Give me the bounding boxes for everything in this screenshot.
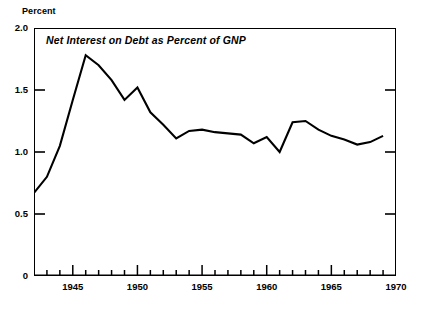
y-axis-unit-label: Percent (22, 6, 56, 16)
x-axis-ticks (34, 265, 396, 276)
y-tick-label: 1.5 (2, 84, 28, 95)
x-tick-label: 1945 (53, 281, 93, 292)
chart-figure: Percent 2.01.51.00.50 194519501955196019… (0, 0, 436, 312)
data-line-series-0 (34, 55, 383, 193)
y-tick-label: 0.5 (2, 208, 28, 219)
y-axis-ticks-left (34, 90, 45, 214)
chart-svg (34, 28, 396, 276)
x-tick-label: 1955 (182, 281, 222, 292)
x-tick-label: 1950 (117, 281, 157, 292)
y-tick-label: 2.0 (2, 22, 28, 33)
chart-title: Net Interest on Debt as Percent of GNP (46, 34, 246, 46)
plot-area (34, 28, 396, 276)
x-tick-label: 1960 (247, 281, 287, 292)
y-tick-label: 1.0 (2, 146, 28, 157)
x-tick-label: 1965 (311, 281, 351, 292)
x-tick-label: 1970 (376, 281, 416, 292)
y-axis-ticks-right (385, 90, 396, 214)
y-tick-label: 0 (2, 270, 28, 281)
